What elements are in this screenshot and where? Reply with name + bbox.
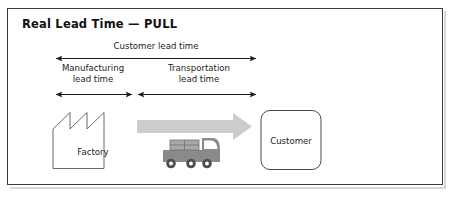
truck-hub-2 <box>189 162 193 166</box>
factory-label: Factory <box>48 147 138 157</box>
flow-arrow-shape <box>137 113 252 140</box>
truck-hub-1 <box>169 162 173 166</box>
factory-outline <box>53 113 104 169</box>
factory-shape <box>53 113 104 169</box>
truck-hub-3 <box>205 162 209 166</box>
figure-screenshot: Real Lead Time — PULL Customer lead time… <box>0 0 452 203</box>
customer-label: Customer <box>256 136 326 146</box>
diagram-artwork <box>0 0 452 203</box>
delivery-truck-icon <box>163 138 220 168</box>
flow-arrow <box>137 113 252 140</box>
